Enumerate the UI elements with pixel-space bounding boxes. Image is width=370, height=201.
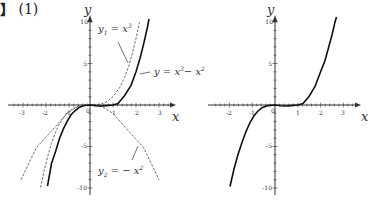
right-xtick-label: 3 — [341, 109, 345, 116]
right-curve-cubic-minus-square — [230, 17, 337, 187]
svg-text:y = x3− x2: y = x3− x2 — [153, 65, 205, 77]
svg-text:y1 = x3: y1 = x3 — [97, 22, 132, 36]
right-x-arrow-icon — [355, 103, 361, 108]
right-xtick-label: 1 — [296, 109, 300, 116]
annotation-y: y = x3− x2 — [140, 65, 205, 77]
left-x-label: x — [172, 109, 180, 124]
left-xtick-label: 3 — [158, 109, 162, 116]
left-xtick-label: -3 — [19, 109, 25, 116]
right-ytick-label: -10 — [262, 184, 272, 191]
left-ytick-label: -10 — [77, 184, 87, 191]
annotation-y2: y2 = − x2 — [97, 146, 143, 178]
left-ytick-label: 10 — [80, 18, 88, 25]
left-ytick-label: -5 — [81, 142, 87, 149]
svg-text:y2 = − x2: y2 = − x2 — [97, 164, 143, 178]
right-ytick-label: 5 — [268, 60, 272, 67]
right-y-label: y — [266, 2, 275, 17]
right-xtick-label: 2 — [319, 109, 323, 116]
left-xtick-label: 0 — [86, 107, 90, 114]
annotation-y1: y1 = x3 — [97, 22, 132, 63]
right-xtick-label: -2 — [226, 109, 232, 116]
figure: -3 -2 -1 0 1 2 3 10 5 -5 -10 x y y1 = x3… — [0, 0, 370, 201]
left-x-arrow-icon — [170, 103, 176, 108]
left-plot: -3 -2 -1 0 1 2 3 10 5 -5 -10 x y y1 = x3… — [8, 2, 205, 195]
left-y-label: y — [83, 2, 92, 17]
right-ytick-label: 10 — [265, 18, 273, 25]
right-x-label: x — [361, 109, 369, 124]
curve-cubic-minus-square — [48, 19, 150, 186]
right-xtick-label: 0 — [271, 107, 275, 114]
left-ytick-label: 5 — [83, 60, 87, 67]
right-ytick-label: -5 — [266, 142, 272, 149]
right-plot: -2 -1 0 1 2 3 10 5 -5 -10 x y — [208, 2, 369, 195]
left-xtick-label: -2 — [42, 109, 48, 116]
left-xtick-label: 2 — [135, 109, 139, 116]
